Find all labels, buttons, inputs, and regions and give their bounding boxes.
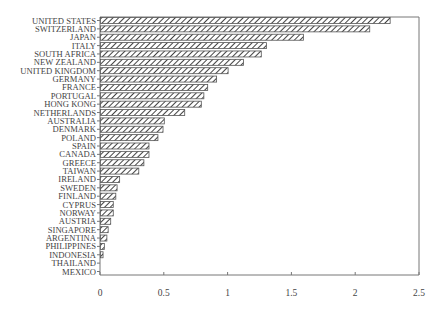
- bar: [101, 243, 105, 249]
- x-tick-label: 2.5: [413, 288, 425, 298]
- bar: [101, 143, 149, 149]
- bar: [101, 185, 118, 191]
- bar: [101, 93, 204, 99]
- bar-chart: UNITED STATESSWITZERLANDJAPANITALYSOUTH …: [0, 0, 442, 311]
- bar: [101, 26, 370, 32]
- bar: [101, 193, 116, 199]
- bar: [101, 151, 149, 157]
- bar: [101, 218, 111, 224]
- bar: [101, 59, 244, 65]
- x-tick-label: 0.5: [158, 288, 170, 298]
- bar: [101, 18, 391, 24]
- bars-group: [101, 18, 391, 258]
- bar: [101, 110, 185, 116]
- bar: [101, 43, 267, 49]
- category-labels: UNITED STATESSWITZERLANDJAPANITALYSOUTH …: [20, 16, 100, 277]
- category-label: MEXICO: [62, 267, 96, 277]
- bar: [101, 160, 144, 166]
- x-tick-label: 2: [353, 288, 358, 298]
- bar: [101, 118, 165, 124]
- bar: [101, 76, 217, 82]
- bar: [101, 168, 139, 174]
- bar: [101, 202, 114, 208]
- bar: [101, 235, 107, 241]
- bar: [101, 210, 114, 216]
- x-tick-label: 1.5: [285, 288, 297, 298]
- bar: [101, 101, 202, 107]
- bar: [101, 68, 229, 74]
- bar: [101, 126, 164, 132]
- bar: [101, 227, 109, 233]
- bar: [101, 176, 120, 182]
- x-axis: 00.511.522.5: [98, 272, 426, 298]
- bar: [101, 51, 262, 57]
- x-tick-label: 1: [225, 288, 230, 298]
- bar: [101, 135, 158, 141]
- bar: [101, 252, 104, 258]
- bar: [101, 34, 304, 40]
- bar: [101, 84, 208, 90]
- x-tick-label: 0: [98, 288, 103, 298]
